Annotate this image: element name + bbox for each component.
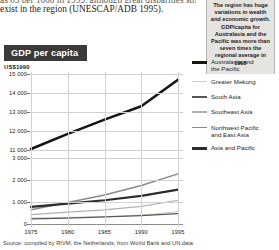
legend-label: South Asia xyxy=(211,93,241,100)
gridline-vertical xyxy=(178,72,179,227)
x-tick-label: 1990 xyxy=(135,229,148,235)
y-tick-label: 3 000 xyxy=(0,155,27,161)
legend-label: Australasia andthe Pacific xyxy=(211,58,254,73)
legend-label: Asia and Pacific xyxy=(211,144,255,151)
y-tick-mark xyxy=(27,112,30,113)
gridline-vertical xyxy=(141,72,142,227)
legend-item[interactable]: Australasia andthe Pacific xyxy=(192,58,279,73)
x-tick-label: 1980 xyxy=(61,229,74,235)
y-tick-label: 12 000 xyxy=(0,128,27,134)
chart-legend: Australasia andthe PacificGreater Mekong… xyxy=(192,58,279,159)
source-note: Source: compiled by RIVM, the Netherland… xyxy=(3,240,193,246)
gridline-vertical xyxy=(31,72,32,227)
y-tick-mark xyxy=(27,180,30,181)
legend-item[interactable]: Greater Mekong xyxy=(192,78,279,88)
y-tick-mark xyxy=(27,202,30,203)
legend-swatch-icon xyxy=(192,147,207,150)
gridline-horizontal xyxy=(30,131,183,132)
y-tick-label: 15 000 xyxy=(0,71,27,77)
y-tick-mark xyxy=(27,74,30,75)
y-tick-label: 13 000 xyxy=(0,109,27,115)
legend-swatch-icon xyxy=(192,111,207,112)
y-tick-mark xyxy=(27,158,30,159)
x-axis-labels: 19751980198519901995 xyxy=(30,229,183,239)
legend-item[interactable]: Southeast Asia xyxy=(192,108,279,118)
legend-label: Southeast Asia xyxy=(211,108,252,115)
y-tick-mark xyxy=(27,224,30,225)
chart-title: GDP per capita xyxy=(4,45,87,61)
legend-label: Greater Mekong xyxy=(211,78,256,85)
gridline-horizontal xyxy=(30,150,183,151)
y-tick-label: 0 xyxy=(0,221,27,227)
y-tick-mark xyxy=(27,131,30,132)
y-axis-labels: 15 00014 00013 00012 00011 0003 0002 000… xyxy=(0,72,27,232)
y-tick-label: 1 000 xyxy=(0,199,27,205)
gridline-horizontal xyxy=(30,180,183,181)
x-tick-label: 1985 xyxy=(98,229,111,235)
gridline-horizontal xyxy=(30,202,183,203)
legend-item[interactable]: Northwest Pacificand East Asia xyxy=(192,124,279,139)
body-text-line-2: exist in the region (UNESCAP/ADB 1995). xyxy=(0,3,196,16)
legend-swatch-icon xyxy=(192,61,207,64)
y-tick-label: 2 000 xyxy=(0,177,27,183)
x-tick-label: 1975 xyxy=(24,229,37,235)
figure-page: as 65 per 1000 in 1995, although great d… xyxy=(0,0,279,250)
body-text: as 65 per 1000 in 1995, although great d… xyxy=(0,0,196,16)
legend-swatch-icon xyxy=(192,81,207,82)
gridline-vertical xyxy=(68,72,69,227)
legend-swatch-icon xyxy=(192,127,207,129)
legend-swatch-icon xyxy=(192,96,207,98)
y-tick-mark xyxy=(27,150,30,151)
gridline-horizontal xyxy=(30,112,183,113)
y-tick-label: 11 000 xyxy=(0,147,27,153)
x-tick-label: 1995 xyxy=(171,229,184,235)
legend-item[interactable]: South Asia xyxy=(192,93,279,103)
legend-label: Northwest Pacificand East Asia xyxy=(211,124,259,139)
y-tick-label: 14 000 xyxy=(0,90,27,96)
gridline-horizontal xyxy=(30,93,183,94)
plot-area xyxy=(30,72,183,227)
gridline-horizontal xyxy=(30,74,183,75)
chart-unit-label: US$1990 xyxy=(4,64,30,70)
gridline-vertical xyxy=(105,72,106,227)
legend-item[interactable]: Asia and Pacific xyxy=(192,144,279,154)
gridline-horizontal xyxy=(30,158,183,159)
gridline-horizontal xyxy=(30,224,183,225)
y-tick-mark xyxy=(27,93,30,94)
